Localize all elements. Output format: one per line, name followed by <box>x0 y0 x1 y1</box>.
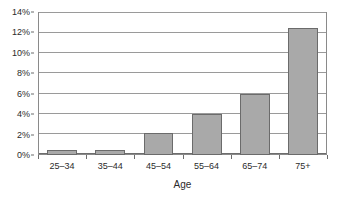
y-tick-label: 14% <box>12 7 30 17</box>
bar-slot <box>183 12 231 155</box>
y-tick-mark <box>31 93 34 94</box>
bar[interactable] <box>240 94 270 155</box>
x-tick-mark <box>86 155 87 159</box>
y-tick-label: 8% <box>17 68 30 78</box>
bar-slot <box>279 12 327 155</box>
x-axis-title: Age <box>38 179 327 190</box>
x-axis-labels: 25–3435–4445–5455–6465–7475+ <box>38 161 327 171</box>
y-tick-label: 6% <box>17 89 30 99</box>
bars-layer <box>38 12 327 155</box>
x-tick-mark <box>231 155 232 159</box>
x-tick-mark <box>134 155 135 159</box>
bar-chart: 0%2%4%6%8%10%12%14% 25–3435–4445–5455–64… <box>0 0 339 205</box>
x-tick-mark <box>183 155 184 159</box>
y-tick-mark <box>31 155 34 156</box>
x-tick-label: 45–54 <box>134 161 182 171</box>
bar-slot <box>38 12 86 155</box>
y-tick-label: 2% <box>17 130 30 140</box>
y-tick-label: 12% <box>12 27 30 37</box>
y-axis: 0%2%4%6%8%10%12%14% <box>0 12 34 155</box>
y-tick-label: 10% <box>12 48 30 58</box>
x-tick-mark <box>279 155 280 159</box>
x-tick-label: 65–74 <box>231 161 279 171</box>
y-tick-mark <box>31 32 34 33</box>
y-tick-label: 4% <box>17 109 30 119</box>
x-tick-mark <box>38 155 39 159</box>
x-tick-label: 55–64 <box>183 161 231 171</box>
y-tick-mark <box>31 114 34 115</box>
y-tick-mark <box>31 134 34 135</box>
bar-slot <box>86 12 134 155</box>
y-tick-label: 0% <box>17 150 30 160</box>
x-tick-label: 75+ <box>279 161 327 171</box>
bar[interactable] <box>192 114 222 155</box>
x-axis-ticks <box>38 155 327 159</box>
bar[interactable] <box>144 133 174 155</box>
bar-slot <box>231 12 279 155</box>
x-tick-label: 25–34 <box>38 161 86 171</box>
bar[interactable] <box>288 28 318 155</box>
bar-slot <box>134 12 182 155</box>
y-tick-mark <box>31 52 34 53</box>
x-tick-mark <box>327 155 328 159</box>
x-tick-label: 35–44 <box>86 161 134 171</box>
y-tick-mark <box>31 12 34 13</box>
y-tick-mark <box>31 73 34 74</box>
